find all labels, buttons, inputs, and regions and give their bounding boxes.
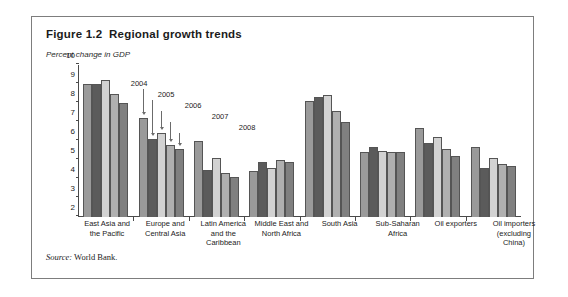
figure-card: Figure 1.2 Regional growth trends Percen… <box>31 16 534 279</box>
bar[interactable] <box>415 128 424 217</box>
bar[interactable] <box>285 162 294 217</box>
x-axis-category-label: Oil importers (excluding China) <box>485 219 543 248</box>
bar[interactable] <box>480 168 489 217</box>
x-axis-category-label: Middle East and North Africa <box>252 219 310 248</box>
x-axis-category-labels: East Asia and the PacificEurope and Cent… <box>78 219 543 248</box>
bar[interactable] <box>323 95 332 217</box>
bar-group <box>244 65 299 217</box>
source-text: World Bank. <box>72 252 117 262</box>
bar[interactable] <box>92 84 101 217</box>
bar[interactable] <box>305 101 314 217</box>
bar[interactable] <box>369 147 378 217</box>
bar[interactable] <box>433 137 442 217</box>
bar[interactable] <box>387 152 396 217</box>
bar-group <box>355 65 410 217</box>
x-axis-category-label: Sub-Saharan Africa <box>369 219 427 248</box>
bar-group <box>300 65 355 217</box>
y-axis-tick-label: 9 <box>71 71 75 79</box>
bar[interactable] <box>175 149 184 217</box>
bar-group <box>78 65 133 217</box>
bar-group <box>189 65 244 217</box>
bar[interactable] <box>498 164 507 217</box>
bar[interactable] <box>442 149 451 217</box>
bar[interactable] <box>212 158 221 217</box>
bar[interactable] <box>341 122 350 217</box>
figure-title: Figure 1.2 Regional growth trends <box>46 28 242 40</box>
bar[interactable] <box>119 103 128 217</box>
bar[interactable] <box>230 177 239 217</box>
bar[interactable] <box>157 133 166 217</box>
bar[interactable] <box>489 158 498 217</box>
bars-layer <box>78 65 521 217</box>
y-axis-tick-label: 7 <box>71 109 75 117</box>
source-note: Source: World Bank. <box>46 252 117 262</box>
bar[interactable] <box>101 80 110 217</box>
bar[interactable] <box>396 152 405 217</box>
bar[interactable] <box>471 147 480 217</box>
bar-group <box>133 65 188 217</box>
bar-group <box>466 65 521 217</box>
y-axis-tick-label: 10 <box>66 52 75 60</box>
bar[interactable] <box>258 162 267 217</box>
bar[interactable] <box>451 156 460 217</box>
x-axis-category-label: South Asia <box>311 219 369 248</box>
bar[interactable] <box>249 171 258 217</box>
axis-subtitle: Percent change in GDP <box>46 50 130 59</box>
y-axis-tick-label: 6 <box>71 128 75 136</box>
y-axis-tick-label: 3 <box>71 185 75 193</box>
bar[interactable] <box>166 145 175 217</box>
bar[interactable] <box>194 141 203 217</box>
x-axis-category-label: Oil exporters <box>427 219 485 248</box>
y-axis-tick-label: 4 <box>71 166 75 174</box>
x-axis-category-label: Europe and Central Asia <box>136 219 194 248</box>
y-axis-tick-mark <box>76 63 79 64</box>
bar[interactable] <box>267 168 276 217</box>
x-axis-category-label: Latin America and the Caribbean <box>194 219 252 248</box>
bar[interactable] <box>332 111 341 217</box>
bar[interactable] <box>507 166 516 217</box>
source-label: Source: <box>46 252 72 262</box>
bar[interactable] <box>424 143 433 217</box>
y-axis-tick-label: 5 <box>71 147 75 155</box>
bar[interactable] <box>360 152 369 217</box>
x-axis-category-label: East Asia and the Pacific <box>78 219 136 248</box>
bar[interactable] <box>203 170 212 218</box>
bar[interactable] <box>83 84 92 217</box>
bar[interactable] <box>276 160 285 217</box>
y-axis-tick-label: 2 <box>71 204 75 212</box>
y-axis-tick-label: 8 <box>71 90 75 98</box>
bar[interactable] <box>314 97 323 217</box>
bar-group <box>410 65 465 217</box>
chart-plot-area: 2345678910 20042005200620072008 <box>56 65 521 217</box>
bar[interactable] <box>221 173 230 217</box>
bar[interactable] <box>378 151 387 218</box>
bar[interactable] <box>139 118 148 217</box>
bar[interactable] <box>110 94 119 218</box>
bar[interactable] <box>148 139 157 217</box>
